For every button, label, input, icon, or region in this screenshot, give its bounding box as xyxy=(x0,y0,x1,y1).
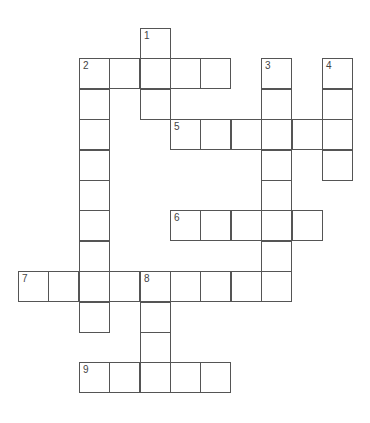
crossword-cell[interactable]: 6 xyxy=(170,210,201,241)
clue-number: 9 xyxy=(83,364,89,375)
crossword-cell[interactable] xyxy=(292,210,323,241)
crossword-cell[interactable] xyxy=(79,119,110,150)
crossword-cell[interactable] xyxy=(48,271,79,302)
crossword-cell[interactable] xyxy=(79,180,110,211)
crossword-cell[interactable] xyxy=(79,150,110,181)
crossword-cell[interactable] xyxy=(231,271,262,302)
crossword-cell[interactable] xyxy=(200,362,231,393)
crossword-cell[interactable] xyxy=(79,271,110,302)
crossword-cell[interactable] xyxy=(79,89,110,120)
crossword-cell[interactable] xyxy=(322,119,353,150)
crossword-cell[interactable] xyxy=(261,89,292,120)
crossword-grid: 123456789 xyxy=(0,0,370,423)
crossword-cell[interactable] xyxy=(79,210,110,241)
crossword-cell[interactable] xyxy=(261,119,292,150)
crossword-cell[interactable] xyxy=(140,332,171,363)
crossword-cell[interactable] xyxy=(261,150,292,181)
crossword-cell[interactable] xyxy=(200,271,231,302)
crossword-cell[interactable] xyxy=(292,119,323,150)
crossword-cell[interactable] xyxy=(200,119,231,150)
crossword-cell[interactable] xyxy=(109,271,140,302)
crossword-cell[interactable] xyxy=(231,210,262,241)
clue-number: 6 xyxy=(174,212,180,223)
crossword-cell[interactable] xyxy=(79,302,110,333)
crossword-cell[interactable] xyxy=(109,58,140,89)
crossword-cell[interactable] xyxy=(322,150,353,181)
crossword-cell[interactable]: 3 xyxy=(261,58,292,89)
crossword-cell[interactable] xyxy=(200,58,231,89)
crossword-cell[interactable] xyxy=(231,119,262,150)
clue-number: 1 xyxy=(144,30,150,41)
crossword-cell[interactable] xyxy=(261,210,292,241)
crossword-cell[interactable] xyxy=(140,58,171,89)
crossword-cell[interactable]: 4 xyxy=(322,58,353,89)
clue-number: 2 xyxy=(83,60,89,71)
crossword-cell[interactable]: 8 xyxy=(140,271,171,302)
crossword-cell[interactable] xyxy=(322,89,353,120)
clue-number: 3 xyxy=(265,60,271,71)
crossword-cell[interactable] xyxy=(170,271,201,302)
crossword-cell[interactable] xyxy=(140,302,171,333)
crossword-cell[interactable] xyxy=(200,210,231,241)
crossword-cell[interactable] xyxy=(109,362,140,393)
crossword-cell[interactable]: 9 xyxy=(79,362,110,393)
clue-number: 8 xyxy=(144,273,150,284)
crossword-cell[interactable] xyxy=(261,241,292,272)
crossword-cell[interactable] xyxy=(170,58,201,89)
crossword-cell[interactable] xyxy=(140,362,171,393)
crossword-cell[interactable]: 1 xyxy=(140,28,171,59)
crossword-cell[interactable]: 7 xyxy=(18,271,49,302)
crossword-cell[interactable] xyxy=(170,362,201,393)
crossword-cell[interactable] xyxy=(79,241,110,272)
crossword-cell[interactable]: 2 xyxy=(79,58,110,89)
crossword-cell[interactable] xyxy=(140,89,171,120)
crossword-cell[interactable] xyxy=(261,180,292,211)
clue-number: 5 xyxy=(174,121,180,132)
crossword-cell[interactable]: 5 xyxy=(170,119,201,150)
clue-number: 4 xyxy=(326,60,332,71)
clue-number: 7 xyxy=(22,273,28,284)
crossword-cell[interactable] xyxy=(261,271,292,302)
